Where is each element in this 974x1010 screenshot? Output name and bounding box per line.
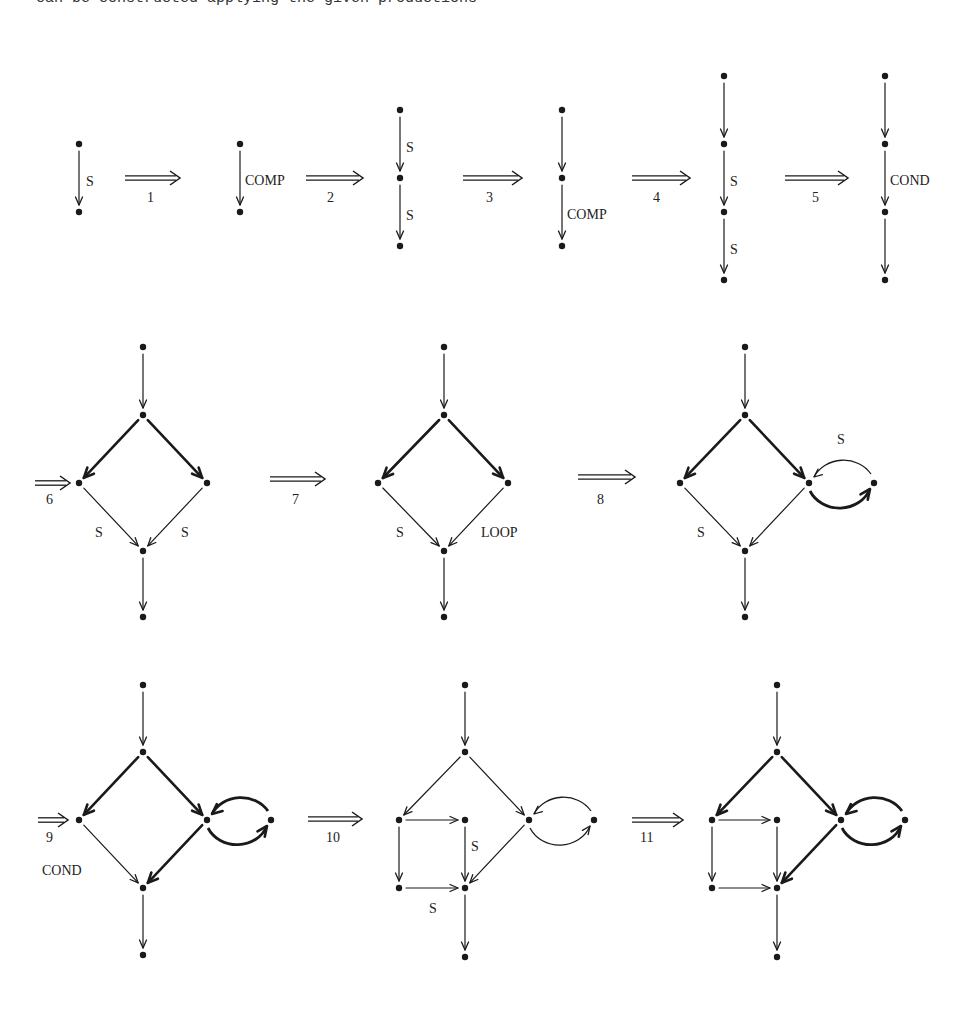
node-dot	[742, 614, 748, 620]
double-arrow-icon	[680, 171, 690, 185]
flow-graph-g5: COND	[882, 73, 930, 283]
node-dot	[140, 682, 146, 688]
edge-label: S	[730, 242, 738, 257]
node-dot	[871, 480, 877, 486]
edge	[470, 757, 524, 815]
edge	[84, 825, 138, 883]
edge-label: S	[406, 140, 414, 155]
edge-label: S	[429, 901, 437, 916]
node-dot	[882, 73, 888, 79]
node-dot	[396, 885, 402, 891]
node-dot	[268, 817, 274, 823]
double-arrow-icon	[60, 476, 70, 490]
thick-edge	[84, 420, 138, 478]
arrowhead-icon	[846, 804, 857, 814]
loop-body-arc	[810, 489, 870, 508]
node-dot	[441, 344, 447, 350]
flow-graph-diagrams: SCOMPSSCOMPSSCONDSSSLOOPSSCONDSS	[42, 73, 930, 960]
edge-label: COND	[42, 863, 82, 878]
node-dot	[140, 749, 146, 755]
node-dot	[76, 480, 82, 486]
edge-label: S	[86, 174, 94, 189]
production-arrow-7: 7	[270, 472, 325, 507]
node-dot	[774, 682, 780, 688]
node-dot	[774, 954, 780, 960]
thick-edge	[685, 420, 740, 478]
thick-edge	[148, 825, 202, 883]
node-dot	[559, 107, 565, 113]
node-dot	[882, 141, 888, 147]
node-dot	[559, 243, 565, 249]
thick-edge	[148, 420, 202, 478]
node-dot	[721, 73, 727, 79]
production-number: 3	[486, 190, 493, 205]
production-arrow-3: 3	[463, 171, 522, 205]
node-dot	[806, 480, 812, 486]
production-arrow-8: 8	[578, 470, 635, 507]
node-dot	[709, 885, 715, 891]
node-dot	[721, 141, 727, 147]
production-arrow-5: 5	[785, 171, 848, 205]
edge-label: S	[406, 208, 414, 223]
node-dot	[742, 548, 748, 554]
double-arrow-icon	[352, 812, 362, 826]
loop-body-arc	[842, 826, 901, 845]
node-dot	[140, 548, 146, 554]
production-number: 6	[46, 492, 53, 507]
production-number: 10	[326, 830, 340, 845]
production-number: 5	[812, 190, 819, 205]
node-dot	[882, 209, 888, 215]
production-arrow-2: 2	[306, 171, 363, 205]
production-arrow-9: 9	[38, 813, 68, 845]
flow-graph-g7: SLOOP	[375, 344, 518, 620]
node-dot	[591, 817, 597, 823]
graph-grammar-derivation-figure: SCOMPSSCOMPSSCONDSSSLOOPSSCONDSS 1234567…	[0, 0, 974, 1010]
double-arrow-icon	[315, 472, 325, 486]
edge-label: S	[730, 174, 738, 189]
node-dot	[462, 817, 468, 823]
production-number: 2	[327, 190, 334, 205]
node-dot	[462, 954, 468, 960]
node-dot	[397, 243, 403, 249]
edge-label: COMP	[245, 173, 285, 188]
flow-graph-g6: SS	[76, 344, 210, 620]
node-dot	[462, 682, 468, 688]
arrowhead-icon	[212, 804, 223, 814]
thick-edge	[449, 420, 503, 478]
node-dot	[140, 412, 146, 418]
flow-graph-g3: COMP	[559, 107, 607, 249]
production-arrow-1: 1	[125, 171, 180, 205]
node-dot	[375, 480, 381, 486]
edge-label: S	[181, 525, 189, 540]
node-dot	[742, 344, 748, 350]
node-dot	[721, 277, 727, 283]
node-dot	[462, 885, 468, 891]
thick-edge	[782, 757, 836, 815]
loop-body-arc	[208, 826, 267, 845]
production-number: 1	[147, 190, 154, 205]
edge-label: COMP	[567, 207, 607, 222]
flow-graph-g11	[709, 682, 909, 960]
production-number: 4	[653, 190, 660, 205]
flow-graph-g10: SS	[396, 682, 598, 960]
flow-graph-g8: SS	[677, 344, 877, 620]
double-arrow-icon	[353, 171, 363, 185]
node-dot	[140, 952, 146, 958]
edge-label: LOOP	[481, 525, 518, 540]
node-dot	[742, 412, 748, 418]
node-dot	[76, 209, 82, 215]
production-arrow-10: 10	[308, 812, 362, 845]
edge-label: COND	[890, 173, 930, 188]
node-dot	[237, 141, 243, 147]
double-arrow-icon	[838, 171, 848, 185]
node-dot	[441, 614, 447, 620]
edge	[84, 488, 138, 546]
double-arrow-icon	[58, 813, 68, 827]
production-number: 7	[292, 492, 299, 507]
thick-edge	[782, 825, 836, 883]
edge-label: S	[396, 525, 404, 540]
production-arrow-4: 4	[632, 171, 690, 205]
node-dot	[774, 817, 780, 823]
edge	[685, 488, 740, 546]
edge	[470, 825, 524, 883]
